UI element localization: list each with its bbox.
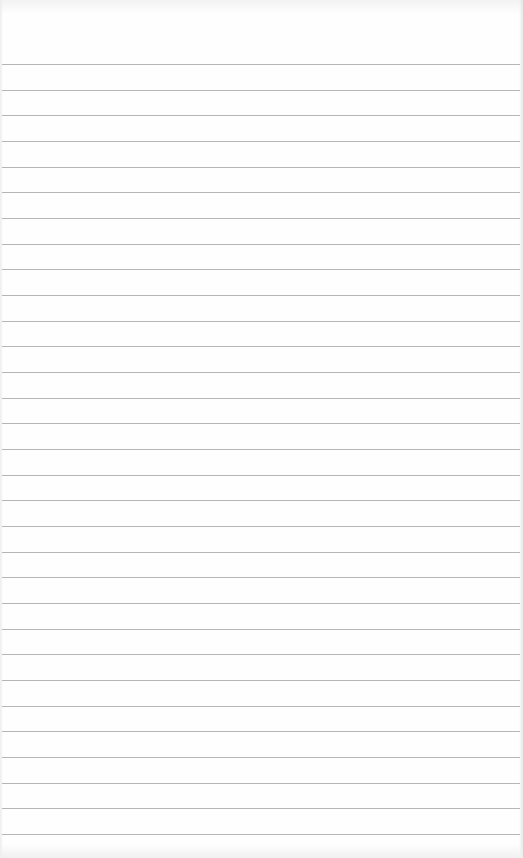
ruled-line bbox=[2, 500, 520, 501]
ruled-line bbox=[2, 192, 520, 193]
ruled-line bbox=[2, 808, 520, 809]
ruled-line bbox=[2, 141, 520, 142]
right-edge-shadow bbox=[519, 0, 523, 858]
ruled-line bbox=[2, 603, 520, 604]
ruled-line bbox=[2, 783, 520, 784]
ruled-line bbox=[2, 64, 520, 65]
ruled-line bbox=[2, 654, 520, 655]
ruled-line bbox=[2, 244, 520, 245]
ruled-paper-sheet bbox=[0, 0, 523, 858]
ruled-line bbox=[2, 115, 520, 116]
ruled-line bbox=[2, 321, 520, 322]
ruled-line bbox=[2, 834, 520, 835]
ruled-line bbox=[2, 475, 520, 476]
ruled-line bbox=[2, 295, 520, 296]
top-edge-shadow bbox=[0, 0, 523, 14]
ruled-line bbox=[2, 90, 520, 91]
ruled-line bbox=[2, 680, 520, 681]
ruled-line bbox=[2, 577, 520, 578]
ruled-line bbox=[2, 629, 520, 630]
ruled-line bbox=[2, 167, 520, 168]
ruled-line bbox=[2, 757, 520, 758]
ruled-line bbox=[2, 398, 520, 399]
ruled-line bbox=[2, 346, 520, 347]
ruled-line bbox=[2, 372, 520, 373]
left-edge-shadow bbox=[0, 0, 3, 858]
ruled-line bbox=[2, 218, 520, 219]
ruled-line bbox=[2, 552, 520, 553]
ruled-line bbox=[2, 449, 520, 450]
ruled-line bbox=[2, 526, 520, 527]
ruled-line bbox=[2, 269, 520, 270]
ruled-line bbox=[2, 706, 520, 707]
ruled-line bbox=[2, 423, 520, 424]
ruled-line bbox=[2, 731, 520, 732]
bottom-edge-shadow bbox=[0, 844, 523, 858]
